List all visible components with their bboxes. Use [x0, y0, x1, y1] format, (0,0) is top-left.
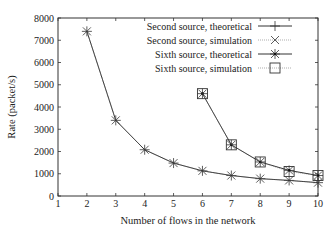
line-chart: 010002000300040005000600070008000 123456… [0, 0, 330, 231]
y-tick-label: 8000 [34, 13, 54, 24]
legend-label: Second source, theoretical [147, 21, 252, 32]
x-tick-label: 6 [200, 198, 205, 209]
y-tick-label: 5000 [34, 79, 54, 90]
y-tick-label: 1000 [34, 168, 54, 179]
x-tick-label: 5 [171, 198, 176, 209]
y-tick-label: 2000 [34, 146, 54, 157]
x-axis-title: Number of flows in the network [120, 215, 256, 226]
legend-item: Second source, theoretical [147, 21, 292, 32]
star-marker-icon [270, 49, 280, 59]
legend-label: Second source, simulation [147, 35, 252, 46]
x-tick-label: 8 [258, 198, 263, 209]
x-tick-label: 3 [113, 198, 118, 209]
legend: Second source, theoreticalSecond source,… [147, 21, 292, 74]
legend-item: Second source, simulation [147, 35, 292, 46]
plus-marker-icon [270, 21, 280, 31]
x-tick-label: 2 [84, 198, 89, 209]
legend-item: Sixth source, theoretical [155, 49, 292, 60]
series-sixth-source-simulation [197, 89, 323, 181]
y-axis-title: Rate (packet/s) [6, 75, 18, 139]
x-tick-label: 4 [142, 198, 147, 209]
legend-item: Sixth source, simulation [155, 63, 292, 74]
x-tick-label: 7 [229, 198, 234, 209]
y-tick-label: 0 [49, 191, 54, 202]
x-tick-label: 9 [287, 198, 292, 209]
legend-label: Sixth source, simulation [155, 63, 252, 74]
x-tick-label: 10 [313, 198, 323, 209]
legend-label: Sixth source, theoretical [155, 49, 252, 60]
y-tick-label: 3000 [34, 124, 54, 135]
y-tick-label: 4000 [34, 102, 54, 113]
x-tick-label: 1 [56, 198, 61, 209]
y-tick-label: 7000 [34, 35, 54, 46]
y-tick-label: 6000 [34, 57, 54, 68]
